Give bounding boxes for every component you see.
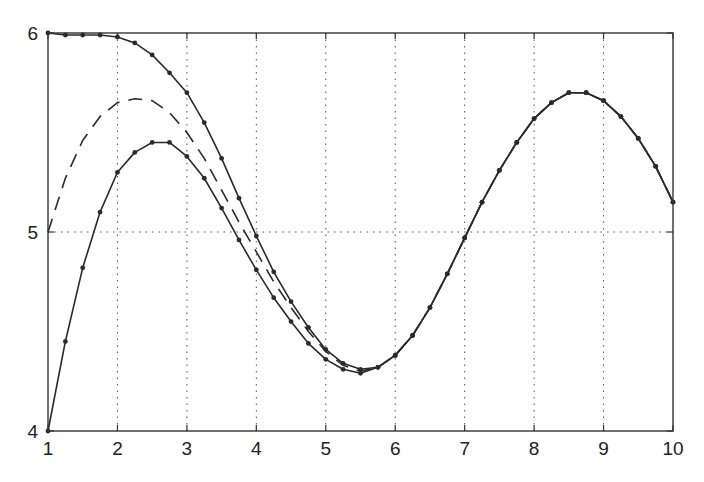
data-point-marker — [271, 295, 276, 300]
data-point-marker — [445, 271, 450, 276]
data-point-marker — [428, 305, 433, 310]
data-point-marker — [514, 140, 519, 145]
data-point-marker — [237, 238, 242, 243]
x-tick-label: 1 — [43, 438, 54, 459]
x-tick-label: 7 — [459, 438, 470, 459]
data-point-marker — [219, 206, 224, 211]
data-point-marker — [184, 90, 189, 95]
y-tick-label: 4 — [27, 421, 38, 442]
line-chart: 12345678910456 — [0, 0, 704, 482]
x-tick-label: 10 — [662, 438, 683, 459]
data-point-marker — [323, 357, 328, 362]
x-tick-label: 6 — [390, 438, 401, 459]
series-0 — [46, 31, 676, 372]
data-point-marker — [497, 168, 502, 173]
x-tick-label: 3 — [182, 438, 193, 459]
data-point-marker — [271, 269, 276, 274]
data-point-marker — [150, 52, 155, 57]
data-point-marker — [167, 140, 172, 145]
data-point-marker — [254, 234, 259, 239]
data-point-marker — [184, 154, 189, 159]
y-tick-label: 5 — [27, 222, 38, 243]
data-point-marker — [289, 299, 294, 304]
data-point-marker — [532, 116, 537, 121]
data-point-marker — [410, 333, 415, 338]
data-point-marker — [219, 156, 224, 161]
data-point-marker — [480, 200, 485, 205]
series-2 — [46, 90, 676, 433]
data-point-marker — [80, 265, 85, 270]
y-tick-label: 6 — [27, 23, 38, 44]
axis-ticks: 12345678910456 — [27, 23, 683, 459]
data-point-marker — [549, 100, 554, 105]
x-tick-label: 2 — [112, 438, 123, 459]
data-point-marker — [202, 176, 207, 181]
data-point-marker — [601, 98, 606, 103]
data-point-marker — [358, 371, 363, 376]
data-point-marker — [254, 267, 259, 272]
data-point-marker — [115, 170, 120, 175]
data-point-marker — [566, 90, 571, 95]
x-tick-label: 5 — [320, 438, 331, 459]
x-tick-label: 8 — [529, 438, 540, 459]
data-point-marker — [202, 120, 207, 125]
data-point-marker — [98, 210, 103, 215]
data-point-marker — [341, 367, 346, 372]
data-point-marker — [63, 339, 68, 344]
data-point-marker — [393, 353, 398, 358]
data-point-marker — [237, 196, 242, 201]
data-point-marker — [132, 41, 137, 46]
data-point-marker — [619, 114, 624, 119]
data-point-marker — [132, 150, 137, 155]
data-point-marker — [375, 365, 380, 370]
data-point-marker — [167, 70, 172, 75]
x-tick-label: 4 — [251, 438, 262, 459]
data-point-marker — [289, 319, 294, 324]
data-point-marker — [636, 136, 641, 141]
data-point-marker — [150, 140, 155, 145]
data-point-marker — [584, 90, 589, 95]
data-point-marker — [462, 236, 467, 241]
x-tick-label: 9 — [598, 438, 609, 459]
data-point-marker — [653, 164, 658, 169]
data-point-marker — [306, 341, 311, 346]
